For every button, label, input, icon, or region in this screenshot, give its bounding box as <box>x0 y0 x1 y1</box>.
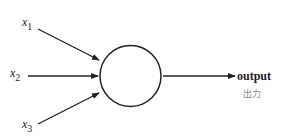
output-sublabel: 出力 <box>243 88 261 99</box>
output-label: output <box>237 69 271 83</box>
input-label-x2: x2 <box>9 66 20 83</box>
input-arrow-1 <box>38 29 99 60</box>
perceptron-diagram: x1 x2 x3 output 出力 <box>0 0 282 138</box>
input-arrow-3 <box>38 93 99 124</box>
input-label-x3: x3 <box>21 117 32 134</box>
neuron-node <box>100 46 161 107</box>
input-label-x1: x1 <box>21 15 32 32</box>
